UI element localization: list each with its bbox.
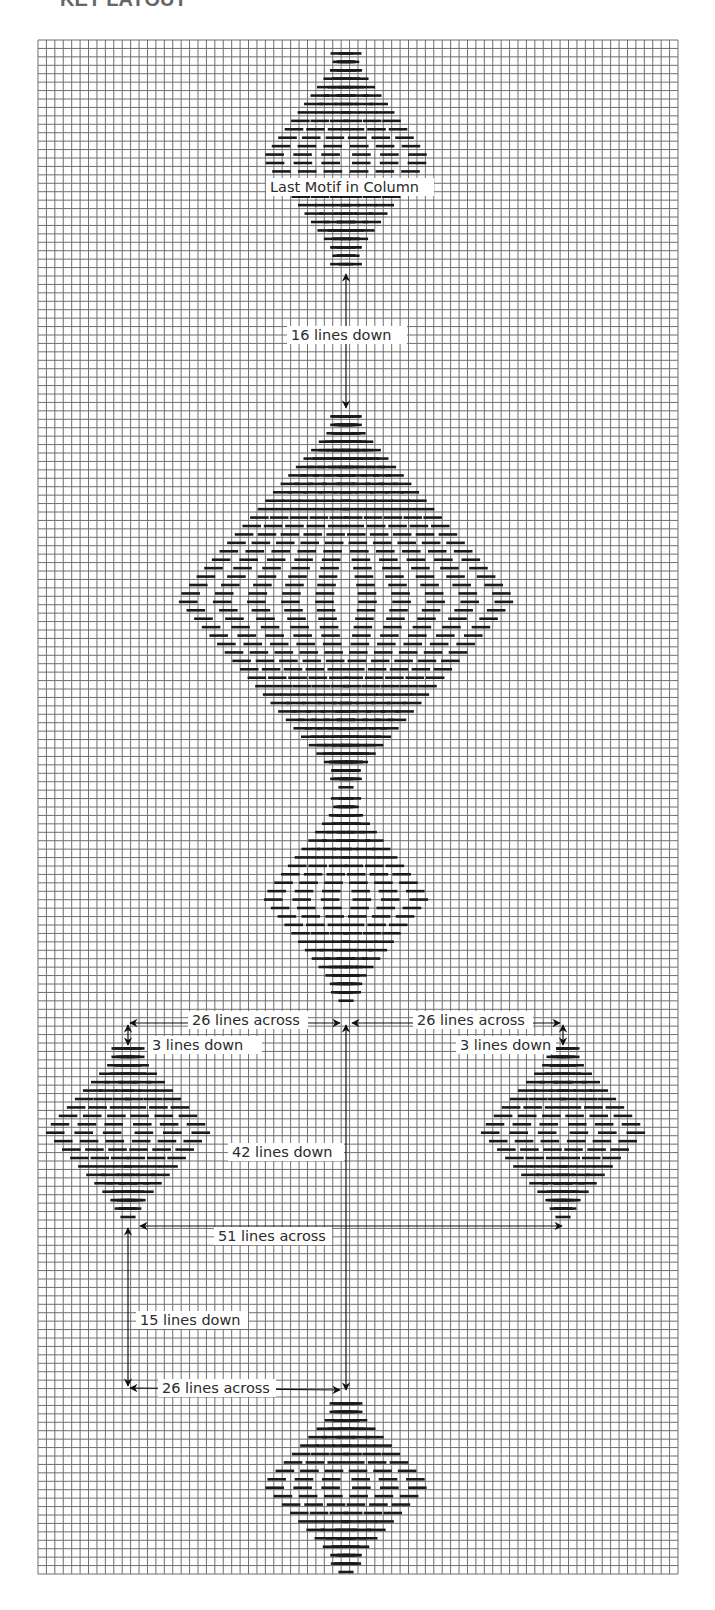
svg-text:3 lines down: 3 lines down	[152, 1037, 243, 1053]
svg-text:26 lines across: 26 lines across	[162, 1380, 270, 1396]
svg-text:Last Motif in Column: Last Motif in Column	[270, 179, 419, 195]
svg-text:16 lines down: 16 lines down	[291, 327, 392, 343]
svg-text:3 lines down: 3 lines down	[460, 1037, 551, 1053]
svg-text:26 lines across: 26 lines across	[192, 1012, 300, 1028]
svg-text:15 lines down: 15 lines down	[140, 1312, 241, 1328]
label-lines-down-16: 16 lines down	[287, 326, 407, 344]
svg-text:26 lines across: 26 lines across	[417, 1012, 525, 1028]
label-lines-across-26-bottom: 26 lines across	[158, 1379, 276, 1397]
svg-text:42 lines down: 42 lines down	[232, 1144, 333, 1160]
label-lines-across-51: 51 lines across	[214, 1227, 332, 1245]
label-lines-across-26-right: 26 lines across	[413, 1011, 533, 1029]
label-lines-down-15: 15 lines down	[136, 1311, 248, 1329]
label-lines-down-3-left: 3 lines down	[148, 1036, 262, 1054]
label-last-motif: Last Motif in Column	[266, 178, 434, 196]
label-lines-down-3-right: 3 lines down	[456, 1036, 556, 1054]
label-lines-across-26-left: 26 lines across	[188, 1011, 308, 1029]
bargello-chart: Last Motif in Column16 lines down26 line…	[0, 0, 715, 1610]
label-lines-down-42: 42 lines down	[228, 1143, 344, 1161]
svg-text:51 lines across: 51 lines across	[218, 1228, 326, 1244]
